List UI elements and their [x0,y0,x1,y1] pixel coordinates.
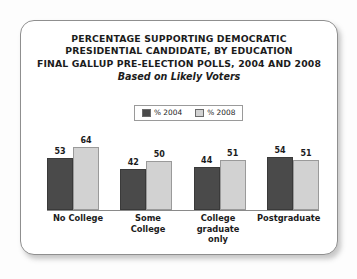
category-label-no-college-line-1: No College [47,213,109,224]
title-block: PERCENTAGE SUPPORTING DEMOCRATIC PRESIDE… [21,33,337,84]
chart-legend: % 2004 % 2008 [134,105,243,121]
bar-group-postgraduate: 54 51 [267,141,319,210]
bar-value-postgraduate-2008: 51 [293,149,319,158]
bar-wrap-college-graduate-only-2004: 44 [194,141,220,210]
chart-card: PERCENTAGE SUPPORTING DEMOCRATIC PRESIDE… [20,20,338,255]
bar-postgraduate-2004 [267,157,293,210]
title-line-1: PERCENTAGE SUPPORTING DEMOCRATIC [21,33,337,45]
bar-wrap-postgraduate-2004: 54 [267,141,293,210]
bar-value-postgraduate-2004: 54 [267,146,293,155]
bar-wrap-college-graduate-only-2008: 51 [220,141,246,210]
bar-wrap-no-college-2004: 53 [47,141,73,210]
bar-value-college-graduate-only-2004: 44 [194,156,220,165]
bar-group-college-graduate-only: 44 51 [194,141,246,210]
category-label-no-college: No College [47,213,109,245]
bar-college-graduate-only-2008 [220,160,246,210]
category-label-some-college-line-1: Some College [117,213,179,234]
bar-college-graduate-only-2004 [194,167,220,210]
legend-label-2004: % 2004 [154,108,182,117]
bar-value-some-college-2004: 42 [120,158,146,167]
bar-group-no-college: 53 64 [47,141,99,210]
bar-wrap-postgraduate-2008: 51 [293,141,319,210]
category-label-postgraduate-line-1: Postgraduate [257,213,319,224]
bar-no-college-2004 [47,158,73,210]
category-label-college-graduate-only-line-2: graduate only [187,224,249,245]
bar-value-college-graduate-only-2008: 51 [220,149,246,158]
chart-subtitle: Based on Likely Voters [21,70,337,84]
bar-wrap-some-college-2004: 42 [120,141,146,210]
x-axis-line [47,210,319,211]
category-label-college-graduate-only-line-1: College [187,213,249,224]
legend-swatch-icon-2004 [142,109,151,117]
bar-some-college-2008 [146,161,172,210]
bar-no-college-2008 [73,147,99,210]
title-line-2: PRESIDENTIAL CANDIDATE, BY EDUCATION [21,45,337,57]
bar-postgraduate-2008 [293,160,319,210]
legend-item-2008: % 2008 [195,108,235,117]
bar-wrap-some-college-2008: 50 [146,141,172,210]
bar-some-college-2004 [120,169,146,210]
category-labels: No College Some College College graduate… [47,213,319,245]
bar-value-no-college-2008: 64 [73,136,99,145]
category-label-college-graduate-only: College graduate only [187,213,249,245]
bar-group-some-college: 42 50 [120,141,172,210]
bar-wrap-no-college-2008: 64 [73,141,99,210]
bar-groups: 53 64 42 50 44 51 [47,141,319,210]
title-line-3: FINAL GALLUP PRE-ELECTION POLLS, 2004 AN… [21,58,337,70]
legend-label-2008: % 2008 [207,108,235,117]
category-label-some-college: Some College [117,213,179,245]
legend-item-2004: % 2004 [142,108,182,117]
legend-swatch-icon-2008 [195,109,204,117]
category-label-postgraduate: Postgraduate [257,213,319,245]
bar-value-no-college-2004: 53 [47,147,73,156]
bar-value-some-college-2008: 50 [146,150,172,159]
